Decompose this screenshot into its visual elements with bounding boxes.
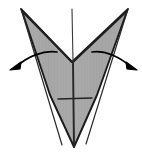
center-vertical-crease-lower <box>73 62 74 147</box>
origami-diagram-canvas <box>0 0 142 154</box>
origami-figure <box>0 0 142 154</box>
horizontal-crease-line <box>58 98 92 99</box>
